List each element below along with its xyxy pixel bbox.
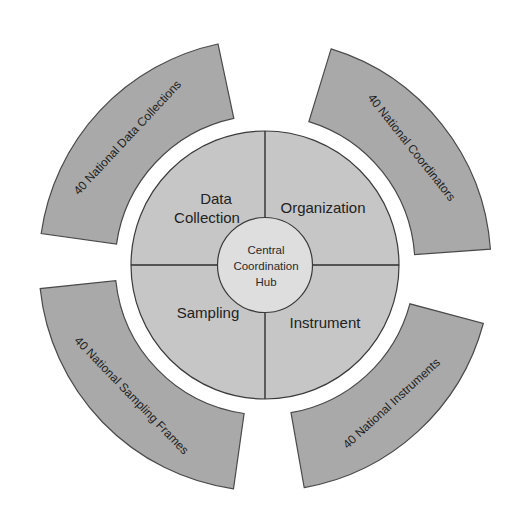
quadrant-label: Sampling (177, 304, 240, 321)
quadrant-instrument: Instrument (290, 314, 362, 331)
quadrant-label-line: Data (200, 190, 232, 207)
coordination-diagram: 40 National Data Collections 40 National… (0, 0, 526, 523)
quadrant-label: Organization (280, 199, 365, 216)
hub-label-line: Hub (255, 276, 276, 288)
quadrant-label: Instrument (290, 314, 362, 331)
central-hub: Central Coordination Hub (218, 218, 313, 313)
quadrant-sampling: Sampling (177, 304, 240, 321)
hub-label-line: Coordination (233, 260, 298, 272)
quadrant-label-line: Collection (174, 209, 240, 226)
hub-label-line: Central (247, 244, 284, 256)
quadrant-organization: Organization (280, 199, 365, 216)
